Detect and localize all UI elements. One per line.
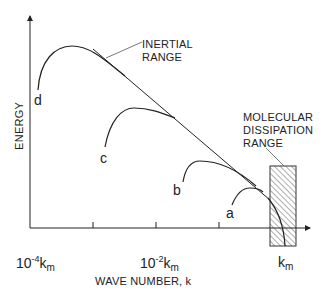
- inertial-leader-line: [106, 42, 142, 58]
- tick-unit: k: [278, 254, 285, 270]
- molecular-label-line1: MOLECULAR: [243, 111, 313, 123]
- molecular-label-line2: DISSIPATION: [243, 124, 313, 136]
- inertial-label-line2: RANGE: [142, 51, 182, 63]
- y-axis-label: ENERGY: [13, 102, 25, 150]
- tick-exp: -2: [156, 254, 164, 264]
- curve-label-d: d: [34, 92, 42, 108]
- curve-label-b: b: [173, 182, 181, 198]
- tick-sub: m: [47, 262, 55, 273]
- tick-unit: k: [40, 255, 47, 271]
- tick-exp: -4: [32, 254, 40, 264]
- molecular-leader-line: [266, 148, 284, 166]
- curve-label-c: c: [100, 150, 107, 166]
- tick-base: 10: [140, 255, 156, 271]
- molecular-label-line3: RANGE: [243, 137, 283, 149]
- x-tick-label: 10-2km: [140, 254, 179, 273]
- tick-unit: k: [164, 255, 171, 271]
- tick-sub: m: [285, 261, 293, 272]
- tick-base: 10: [16, 255, 32, 271]
- inertial-label-line1: INERTIAL: [142, 38, 193, 50]
- curve-c: [105, 108, 175, 147]
- tick-sub: m: [171, 262, 179, 273]
- curve-label-a: a: [226, 205, 234, 221]
- curve-b: [183, 161, 256, 186]
- x-tick-label: km: [278, 254, 293, 272]
- x-tick-label: 10-4km: [16, 254, 55, 273]
- x-axis-label: WAVE NUMBER, k: [95, 275, 191, 287]
- curve-d: [38, 46, 125, 90]
